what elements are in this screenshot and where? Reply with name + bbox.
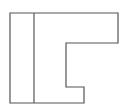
diagram-canvas <box>0 0 129 109</box>
shape-outline <box>10 13 118 103</box>
